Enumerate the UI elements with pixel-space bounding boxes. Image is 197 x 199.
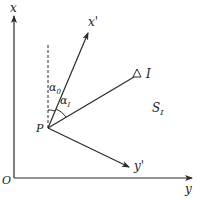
target-I-label: I [145, 67, 151, 81]
y-prime-axis [48, 128, 129, 167]
y-axis-label: y [184, 182, 192, 196]
angle-arc-alpha0 [48, 110, 55, 111]
distance-label: SI [152, 101, 164, 117]
origin-label: O [2, 174, 11, 187]
angle-arc-alpha1 [56, 109, 66, 117]
y-prime-label: y' [133, 159, 144, 173]
diagram-canvas: x y O x' y' P I SI α0 αI [0, 0, 197, 199]
point-P-label: P [35, 122, 44, 135]
x-axis-label: x [10, 1, 17, 15]
target-triangle-icon [133, 69, 141, 77]
x-prime-label: x' [88, 15, 98, 29]
angle-alpha1-label: αI [60, 94, 70, 109]
